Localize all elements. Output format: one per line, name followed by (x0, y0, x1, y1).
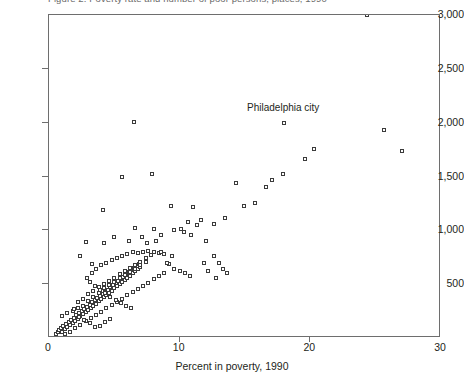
figure-title-clipped: Figure 2. Poverty rate and number of poo… (48, 0, 448, 5)
data-point (120, 254, 124, 258)
x-axis-tick-label: 30 (434, 341, 446, 353)
data-point (93, 325, 97, 329)
data-point (104, 261, 108, 265)
data-point (400, 149, 404, 153)
data-point (102, 286, 106, 290)
data-point (131, 290, 135, 294)
data-point (93, 284, 97, 288)
x-axis-label: Percent in poverty, 1990 (0, 360, 464, 372)
data-point (141, 250, 145, 254)
data-point (169, 204, 173, 208)
data-point (188, 274, 192, 278)
x-axis-tick-label: 0 (45, 341, 51, 353)
data-point (159, 233, 163, 237)
data-point (119, 301, 123, 305)
data-point (101, 208, 105, 212)
data-point (81, 304, 85, 308)
data-point (178, 269, 182, 273)
data-point (65, 311, 69, 315)
data-point (132, 120, 136, 124)
data-point (154, 239, 158, 243)
data-point (312, 147, 316, 151)
plot-area (48, 14, 440, 337)
y-axis-tick-label: 1,500 (424, 170, 464, 182)
data-point (165, 261, 169, 265)
data-point (189, 233, 193, 237)
data-point (115, 256, 119, 260)
data-point (253, 201, 257, 205)
data-point (86, 299, 90, 303)
data-point (88, 321, 92, 325)
data-point (90, 262, 94, 266)
y-axis-tick-label: 2,500 (424, 62, 464, 74)
data-point (146, 249, 150, 253)
scatter-chart-figure: Figure 2. Poverty rate and number of poo… (0, 0, 464, 382)
y-axis-tick-label: 500 (424, 277, 464, 289)
data-point (91, 295, 95, 299)
x-axis-tick-mark (179, 337, 180, 342)
data-point (110, 303, 114, 307)
x-axis-tick-label: 10 (173, 341, 185, 353)
data-point (225, 271, 229, 275)
data-point (152, 277, 156, 281)
data-point (382, 128, 386, 132)
data-point (136, 251, 140, 255)
data-point (99, 263, 103, 267)
data-point (303, 157, 307, 161)
data-point (112, 235, 116, 239)
data-point (127, 239, 131, 243)
data-point (138, 263, 142, 267)
data-point (128, 270, 132, 274)
data-points-layer (49, 15, 439, 336)
data-point (118, 276, 122, 280)
y-axis-tick-mark (42, 283, 48, 284)
data-point (145, 241, 149, 245)
y-axis-tick-mark (42, 122, 48, 123)
y-axis-tick-mark (42, 229, 48, 230)
data-point (281, 172, 285, 176)
data-point (63, 332, 67, 336)
data-point (150, 172, 154, 176)
data-point (183, 271, 187, 275)
data-point (195, 223, 199, 227)
y-axis-tick-label: 1,000 (424, 223, 464, 235)
data-point (206, 269, 210, 273)
data-point (212, 254, 216, 258)
data-point (146, 281, 150, 285)
data-point (88, 280, 92, 284)
data-point (110, 258, 114, 262)
data-point (264, 185, 268, 189)
data-point (182, 230, 186, 234)
data-point (68, 330, 72, 334)
data-point (141, 284, 145, 288)
data-point (202, 261, 206, 265)
data-point (102, 241, 106, 245)
data-point (136, 287, 140, 291)
data-point (282, 121, 286, 125)
data-point (170, 254, 174, 258)
data-point (129, 306, 133, 310)
data-point (78, 254, 82, 258)
data-point (162, 271, 166, 275)
data-point (60, 314, 64, 318)
data-point (152, 250, 156, 254)
data-point (84, 240, 88, 244)
data-point (76, 306, 80, 310)
data-point (159, 250, 163, 254)
data-point (365, 15, 369, 17)
data-point (125, 293, 129, 297)
data-point (104, 306, 108, 310)
data-point (270, 178, 274, 182)
data-point (82, 318, 86, 322)
data-point (78, 323, 82, 327)
data-point (223, 216, 227, 220)
data-point (124, 304, 128, 308)
data-point (81, 297, 85, 301)
x-axis-tick-mark (309, 337, 310, 342)
data-point (125, 252, 129, 256)
data-point (108, 295, 112, 299)
data-point (98, 288, 102, 292)
data-point (186, 220, 190, 224)
x-axis-tick-label: 20 (303, 341, 315, 353)
data-point (133, 267, 137, 271)
